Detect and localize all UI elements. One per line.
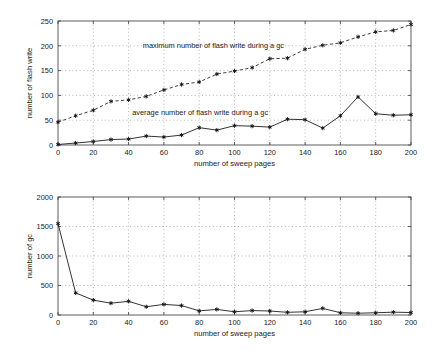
x-tick-label: 200	[405, 148, 417, 157]
gc-count-chart-panel: 0204060801001201401601802000500100015002…	[0, 180, 433, 354]
x-tick-label: 120	[264, 318, 276, 327]
series-annotation-0: maximum number of flash write during a g…	[143, 41, 285, 50]
y-tick-label: 0	[49, 311, 53, 320]
figure-container: 0204060801001201401601802000501001502002…	[0, 0, 433, 354]
x-tick-label: 160	[334, 148, 346, 157]
x-tick-label: 80	[195, 148, 203, 157]
y-tick-label: 250	[41, 17, 53, 26]
x-tick-label: 100	[228, 318, 240, 327]
x-tick-label: 60	[160, 318, 168, 327]
data-point-marker	[303, 47, 307, 51]
y-tick-label: 1000	[37, 252, 53, 261]
y-tick-label: 1500	[37, 222, 53, 231]
x-tick-label: 100	[228, 148, 240, 157]
x-tick-label: 20	[89, 148, 97, 157]
x-tick-label: 20	[89, 318, 97, 327]
y-tick-label: 200	[41, 42, 53, 51]
y-tick-label: 50	[45, 116, 53, 125]
x-tick-label: 0	[56, 148, 60, 157]
x-tick-label: 140	[299, 148, 311, 157]
x-tick-label: 180	[370, 318, 382, 327]
x-tick-label: 80	[195, 318, 203, 327]
data-point-marker	[321, 126, 325, 130]
x-tick-label: 40	[124, 318, 132, 327]
flash-write-chart-svg: 0204060801001201401601802000501001502002…	[0, 0, 433, 180]
y-tick-label: 100	[41, 91, 53, 100]
x-tick-label: 180	[370, 148, 382, 157]
x-tick-label: 200	[405, 318, 417, 327]
gc-count-chart-svg: 0204060801001201401601802000500100015002…	[0, 180, 433, 354]
y-tick-label: 2000	[37, 193, 53, 202]
x-tick-label: 60	[160, 148, 168, 157]
x-tick-label: 120	[264, 148, 276, 157]
x-tick-label: 160	[334, 318, 346, 327]
y-axis-title: number of gc	[25, 234, 34, 279]
x-tick-label: 0	[56, 318, 60, 327]
data-point-marker	[74, 291, 78, 295]
data-point-marker	[409, 22, 413, 26]
y-tick-label: 0	[49, 141, 53, 150]
flash-write-chart-panel: 0204060801001201401601802000501001502002…	[0, 0, 433, 180]
data-point-marker	[286, 56, 290, 60]
x-axis-title: number of sweep pages	[194, 159, 275, 168]
y-tick-label: 150	[41, 66, 53, 75]
x-tick-label: 140	[299, 318, 311, 327]
y-axis-title: number of flash write	[25, 48, 34, 118]
data-point-marker	[56, 221, 60, 225]
x-tick-label: 40	[124, 148, 132, 157]
x-axis-title: number of sweep pages	[194, 329, 275, 338]
y-tick-label: 500	[41, 281, 53, 290]
series-annotation-1: average number of flash write during a g…	[132, 108, 268, 117]
